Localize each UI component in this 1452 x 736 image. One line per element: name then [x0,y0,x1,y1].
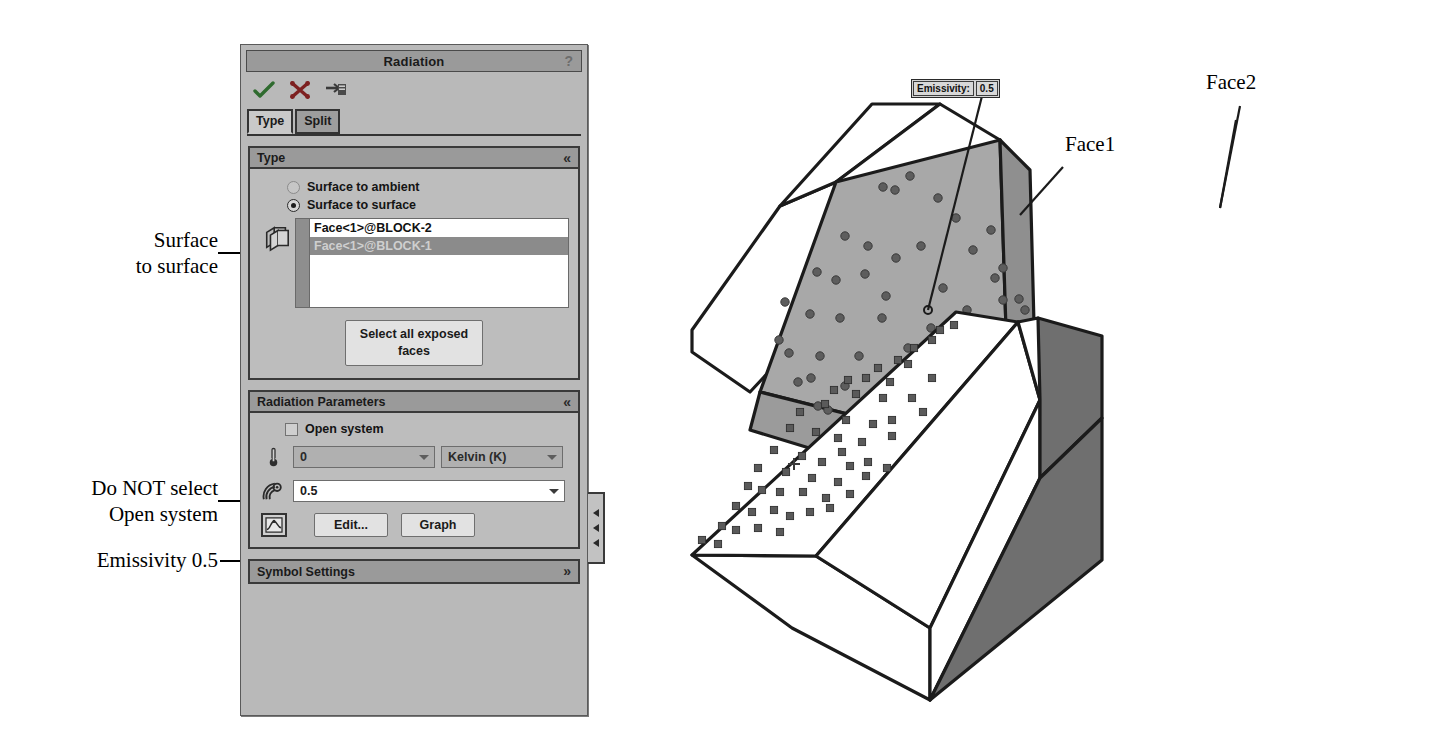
radio-label-surface: Surface to surface [307,198,416,212]
annotation-emissivity: Emissivity 0.5 [36,548,218,574]
face1-label: Face1 [1065,132,1115,157]
emissivity-callout-value: 0.5 [976,81,998,96]
symbol-settings-section: Symbol Settings » [248,559,580,584]
chevron-down-icon[interactable]: » [563,563,571,579]
panel-toolbar [241,72,587,104]
caret-left-icon [593,539,599,547]
tab-type[interactable]: Type [247,109,293,134]
type-section-header[interactable]: Type « [250,148,578,169]
open-system-checkbox[interactable] [285,423,298,436]
emissivity-input[interactable]: 0.5 [293,480,565,502]
list-item[interactable]: Face<1>@BLOCK-1 [310,237,568,255]
faces-icon [259,218,295,256]
select-all-exposed-faces-button[interactable]: Select all exposed faces [345,320,483,366]
radiation-parameters-title: Radiation Parameters [257,395,386,409]
type-section-body: Surface to ambient Surface to surface [250,169,578,378]
help-icon[interactable]: ? [564,53,573,69]
radio-label-ambient: Surface to ambient [307,180,420,194]
chevron-down-icon[interactable] [547,455,557,460]
emissivity-row: 0.5 [259,478,569,504]
curve-buttons-row: Edit... Graph [259,513,569,537]
ok-icon[interactable] [253,80,275,100]
open-system-checkbox-row[interactable]: Open system [285,422,569,436]
panel-titlebar: Radiation ? [246,50,582,72]
panel-tabs: Type Split [247,110,581,136]
page-title: Radiation [383,54,444,69]
face2-label: Face2 [1206,70,1256,95]
face-listbox[interactable]: Face<1>@BLOCK-2 Face<1>@BLOCK-1 [295,218,569,308]
caret-left-icon [593,509,599,517]
panel-resize-handle[interactable] [588,492,605,564]
temperature-input[interactable]: 0 [293,446,435,468]
graphics-area[interactable]: Face1 Face2 [640,0,1452,736]
list-item[interactable]: Face<1>@BLOCK-2 [310,219,568,237]
emissivity-value: 0.5 [300,484,317,498]
chevron-down-icon[interactable] [419,455,429,460]
cancel-icon[interactable] [289,80,311,100]
type-section: Type « Surface to ambient Surface to sur… [248,146,580,380]
radiation-parameters-body: Open system 0 Kelv [250,413,578,547]
radiation-parameters-section: Radiation Parameters « Open system [248,390,580,549]
edit-button[interactable]: Edit... [314,513,388,537]
annotation-open-system-leader [218,500,240,502]
emissivity-callout-label: Emissivity: [913,81,974,96]
chevron-up-icon[interactable]: « [563,150,571,166]
radio-surface-to-surface[interactable]: Surface to surface [287,198,569,212]
chevron-up-icon[interactable]: « [563,394,571,410]
radiation-parameters-header[interactable]: Radiation Parameters « [250,392,578,413]
radio-surface-to-ambient[interactable]: Surface to ambient [287,180,569,194]
radiation-waves-icon [259,478,287,504]
screenshot-root: Surface to surface Do NOT select Open sy… [0,0,1452,736]
radio-indicator-surface [287,199,300,212]
listbox-items: Face<1>@BLOCK-2 Face<1>@BLOCK-1 [310,219,568,307]
radio-indicator-ambient [287,181,300,194]
face-selection-row: Face<1>@BLOCK-2 Face<1>@BLOCK-1 [259,218,569,308]
caret-left-icon [593,524,599,532]
temperature-value: 0 [300,450,307,464]
open-system-label: Open system [305,422,384,436]
model-view [640,0,1452,736]
tab-split[interactable]: Split [295,109,340,134]
symbol-settings-header[interactable]: Symbol Settings » [250,561,578,582]
annotation-emissivity-leader [220,560,240,562]
chevron-down-icon[interactable] [549,489,559,494]
annotation-open-system: Do NOT select Open system [30,476,218,527]
thermometer-icon [259,444,287,470]
preview-icon[interactable] [325,80,347,100]
symbol-settings-title: Symbol Settings [257,565,355,579]
graph-button[interactable]: Graph [401,513,475,537]
annotation-surface-to-surface: Surface to surface [38,228,218,279]
temperature-row: 0 Kelvin (K) [259,444,569,470]
edit-curve-icon[interactable] [261,513,287,537]
units-value: Kelvin (K) [448,450,506,464]
type-section-title: Type [257,151,285,165]
listbox-gutter [296,219,310,307]
annotation-surface-to-surface-leader [218,252,240,254]
emissivity-callout[interactable]: Emissivity: 0.5 [911,79,1000,98]
units-select[interactable]: Kelvin (K) [441,446,563,468]
radiation-property-manager: Radiation ? [240,44,588,716]
